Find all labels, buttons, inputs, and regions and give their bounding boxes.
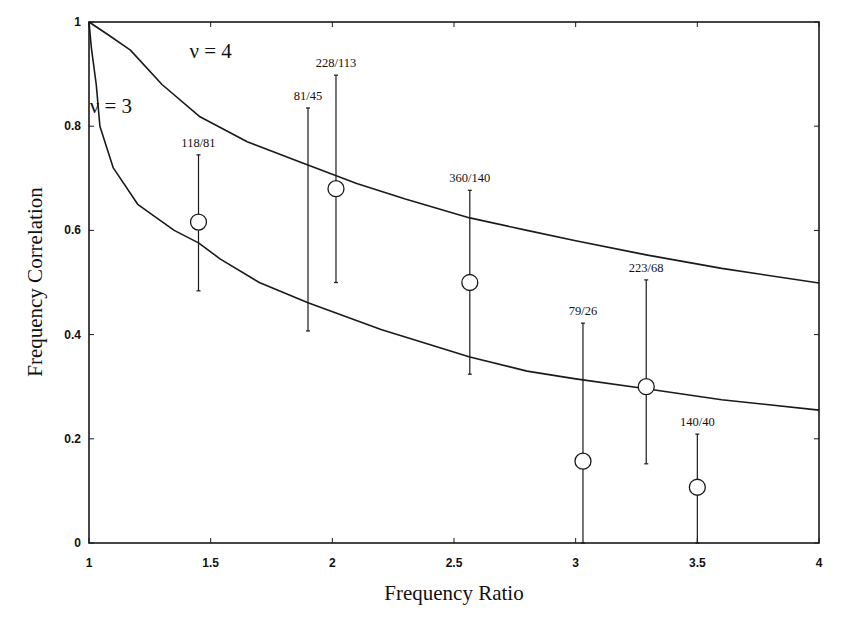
curve-label: ν = 4	[189, 39, 232, 63]
data-point: 360/140	[449, 171, 490, 374]
x-tick-label: 3	[572, 556, 579, 570]
point-label: 228/113	[316, 56, 357, 70]
data-point: 140/40	[680, 415, 715, 543]
x-tick-label: 1	[86, 556, 93, 570]
point-label: 118/81	[181, 136, 215, 150]
y-axis-ticks: 00.20.40.60.81	[64, 15, 819, 550]
x-axis-ticks: 11.522.533.54	[86, 22, 823, 570]
data-point: 81/45	[294, 89, 322, 331]
point-label: 79/26	[569, 304, 597, 318]
y-tick-label: 0	[74, 536, 81, 550]
x-axis-title: Frequency Ratio	[384, 581, 523, 605]
y-axis-title: Frequency Correlation	[23, 187, 47, 377]
point-label: 223/68	[629, 261, 664, 275]
x-tick-label: 2	[329, 556, 336, 570]
circle-marker-icon	[575, 453, 591, 469]
y-tick-label: 0.2	[64, 432, 81, 446]
y-tick-label: 0.4	[64, 328, 81, 342]
y-tick-label: 0.8	[64, 119, 81, 133]
x-tick-label: 4	[816, 556, 823, 570]
curve-label: ν = 3	[90, 94, 132, 118]
point-label: 81/45	[294, 89, 322, 103]
x-tick-label: 2.5	[446, 556, 463, 570]
x-tick-label: 1.5	[202, 556, 219, 570]
circle-marker-icon	[191, 214, 207, 230]
circle-marker-icon	[328, 181, 344, 197]
point-label: 360/140	[449, 171, 490, 185]
data-point: 223/68	[629, 261, 664, 464]
data-points: 118/8181/45228/113360/14079/26223/68140/…	[181, 56, 714, 543]
point-label: 140/40	[680, 415, 715, 429]
data-point: 79/26	[569, 304, 597, 543]
y-tick-label: 1	[74, 15, 81, 29]
circle-marker-icon	[462, 275, 478, 291]
x-tick-label: 3.5	[689, 556, 706, 570]
y-tick-label: 0.6	[64, 223, 81, 237]
data-point: 118/81	[181, 136, 215, 291]
circle-marker-icon	[638, 379, 654, 395]
circle-marker-icon	[689, 479, 705, 495]
frequency-correlation-chart: 11.522.533.54 00.20.40.60.81 ν = 4ν = 3 …	[0, 0, 843, 628]
